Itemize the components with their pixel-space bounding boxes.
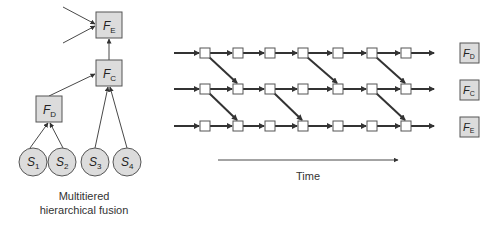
fusion-node-fe: FE (96, 12, 122, 38)
timeline-node (401, 121, 411, 131)
timeline-node (298, 121, 308, 131)
s3-letter: S (89, 155, 97, 169)
fusion-node-fc: FC (96, 60, 122, 86)
time-axis-label: Time (296, 170, 320, 182)
timeline-node (265, 48, 275, 58)
legend-fd-sub: D (470, 53, 475, 60)
hierarchy-tree: FE FC FD S1 S2 S3 S4 Multitiere (19, 7, 141, 216)
s4-letter: S (121, 155, 129, 169)
timeline-node (233, 121, 243, 131)
s2-sub: 2 (64, 162, 69, 171)
edge-s4-fc (110, 87, 127, 148)
timeline-node (298, 84, 308, 94)
fe-sub: E (110, 26, 115, 35)
timeline-node (367, 84, 377, 94)
timeline-node (401, 48, 411, 58)
diagonal-edge (307, 57, 337, 83)
sensor-s4: S4 (113, 148, 141, 176)
fusion-node-fd: FD (36, 96, 62, 122)
diagonal-edge (209, 57, 237, 83)
diagonal-edge (376, 57, 405, 83)
edge-s2-fd (50, 123, 63, 148)
timeline-node (200, 48, 210, 58)
legend-fe: FE (460, 117, 479, 137)
timeline-node (265, 84, 275, 94)
caption-line-2: hierarchical fusion (40, 204, 129, 216)
legend-fc-sub: C (470, 90, 475, 97)
diagonal-edge (209, 93, 237, 120)
s2-letter: S (56, 155, 64, 169)
s4-sub: 4 (129, 162, 134, 171)
timeline-node (333, 48, 343, 58)
legend-fc: FC (460, 80, 479, 100)
edge-s3-fc (95, 87, 108, 148)
edge-in-fe-upper (63, 7, 95, 24)
timeline-node (401, 84, 411, 94)
diagonal-edge (274, 93, 302, 120)
fc-sub: C (110, 74, 116, 83)
timeline-grid: Time FD FC FE (174, 43, 479, 182)
s1-sub: 1 (35, 162, 40, 171)
caption-line-1: Multitiered (59, 190, 110, 202)
edge-in-fe-lower (63, 26, 95, 43)
timeline-node (200, 84, 210, 94)
timeline-node (333, 84, 343, 94)
timeline-node (265, 121, 275, 131)
sensor-s2: S2 (48, 148, 76, 176)
timeline-node (233, 84, 243, 94)
sensor-s1: S1 (19, 148, 47, 176)
legend-fe-sub: E (470, 127, 475, 134)
timeline-node (200, 121, 210, 131)
timeline-node (298, 48, 308, 58)
sensor-s3: S3 (81, 148, 109, 176)
s3-sub: 3 (97, 162, 102, 171)
fusion-diagram: FE FC FD S1 S2 S3 S4 Multitiere (0, 0, 493, 226)
edge-fd-fc (49, 74, 95, 96)
s1-letter: S (27, 155, 35, 169)
legend-fd: FD (460, 43, 479, 63)
fd-sub: D (50, 110, 56, 119)
edge-s1-fd (30, 123, 48, 148)
timeline-node (333, 121, 343, 131)
timeline-node (367, 121, 377, 131)
diagonal-edge (376, 93, 405, 120)
timeline-node (233, 48, 243, 58)
timeline-node (367, 48, 377, 58)
